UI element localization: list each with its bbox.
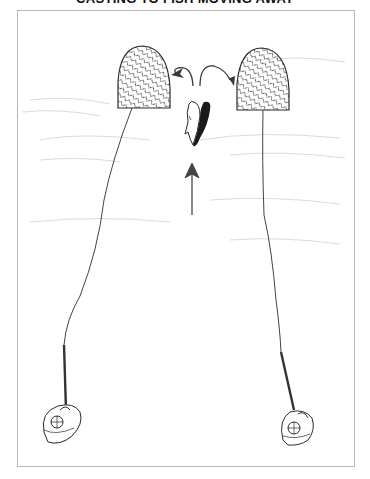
left-target-zone-icon [118, 46, 170, 108]
arrowhead-left-icon [171, 68, 184, 78]
illustration [0, 0, 370, 479]
turn-arrows [175, 66, 230, 86]
water-texture [22, 58, 345, 244]
left-angler-icon [43, 405, 81, 443]
arrowhead-right-icon [226, 74, 235, 86]
left-rod [64, 345, 66, 410]
right-angler-icon [282, 411, 314, 445]
left-fishing-line [64, 108, 132, 345]
right-rod [281, 352, 294, 410]
right-target-zone-icon [237, 48, 289, 110]
fish-icon [185, 101, 210, 146]
right-fishing-line [263, 110, 281, 352]
